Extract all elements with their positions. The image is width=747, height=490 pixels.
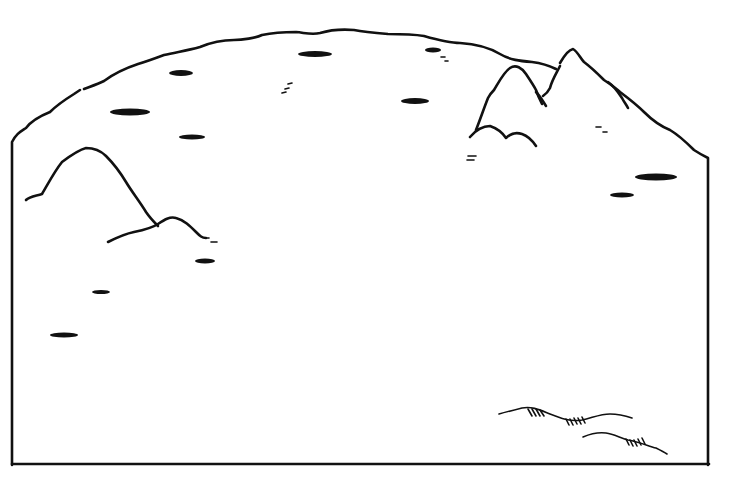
rock-mark bbox=[610, 193, 634, 198]
rock-mark bbox=[635, 174, 677, 181]
rock-mark bbox=[179, 135, 205, 140]
ridge-hatching bbox=[528, 409, 645, 446]
dash-mark bbox=[288, 83, 292, 84]
rock-mark bbox=[110, 109, 150, 116]
rock-mark bbox=[298, 51, 332, 57]
rock-mark bbox=[195, 259, 215, 264]
middle-hill bbox=[476, 66, 542, 130]
rock-mark bbox=[50, 333, 78, 338]
right-peak bbox=[560, 49, 708, 465]
horizon-outline bbox=[12, 30, 556, 465]
rock-mark bbox=[169, 70, 193, 76]
landscape-drawing bbox=[0, 0, 747, 490]
right-peak-left-flank bbox=[543, 66, 560, 96]
rock-mark bbox=[401, 98, 429, 104]
ridge-lower bbox=[583, 433, 667, 454]
dash-mark bbox=[282, 92, 286, 93]
rock-mark bbox=[92, 290, 110, 294]
rock-marks bbox=[50, 48, 677, 338]
left-hill bbox=[26, 148, 158, 226]
dash-mark bbox=[285, 88, 289, 89]
drawing-svg bbox=[0, 0, 747, 490]
middle-hill-foot bbox=[470, 126, 536, 146]
rock-mark bbox=[425, 48, 441, 53]
dash-marks bbox=[205, 57, 607, 242]
left-low-hill bbox=[108, 217, 206, 242]
